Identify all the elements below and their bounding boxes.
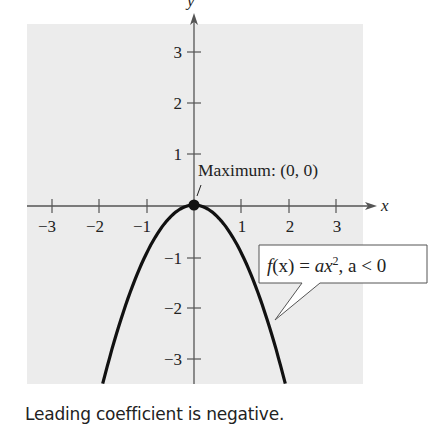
y-tick-label: 3 (174, 43, 183, 62)
x-tick-label: 3 (333, 217, 342, 236)
x-tick-label: 1 (238, 217, 247, 236)
x-tick-label: −3 (38, 217, 56, 236)
y-tick-label: 2 (174, 94, 183, 113)
parabola-chart: x y −3 −2 −1 1 2 3 3 2 1 −1 −2 −3 (0, 0, 447, 428)
x-tick-label: −1 (133, 217, 151, 236)
y-tick-label: −2 (164, 299, 182, 318)
y-tick-label: 1 (174, 145, 183, 164)
y-tick-label: −3 (164, 350, 182, 369)
y-axis-label: y (185, 0, 195, 10)
maximum-label: Maximum: (0, 0) (198, 160, 318, 180)
x-tick-label: −2 (86, 217, 104, 236)
x-tick-label: 2 (286, 217, 295, 236)
y-tick-label: −1 (164, 249, 182, 268)
x-axis-label: x (380, 196, 389, 215)
figure-caption: Leading coefficient is negative. (25, 404, 284, 424)
callout-text: f(x) = ax2, a < 0 (267, 254, 386, 277)
maximum-point (189, 200, 200, 211)
